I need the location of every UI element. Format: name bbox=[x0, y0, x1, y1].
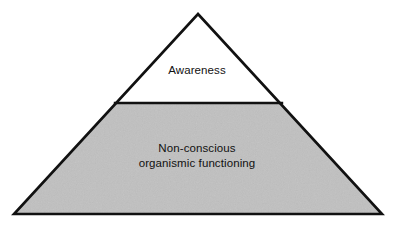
layer-label-awareness: Awareness bbox=[0, 63, 394, 78]
pyramid-graphic bbox=[0, 0, 394, 228]
layer-label-non-conscious: Non-conscious organismic functioning bbox=[0, 141, 394, 170]
pyramid-upper-section bbox=[116, 14, 281, 103]
pyramid-diagram: Awareness Non-conscious organismic funct… bbox=[0, 0, 394, 228]
